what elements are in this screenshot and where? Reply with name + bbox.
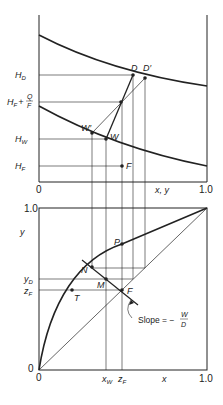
d-prime-w-prime-line (92, 78, 145, 133)
label-zf-y: zF (23, 286, 33, 297)
upper-x-origin: 0 (36, 184, 42, 195)
label-hf-plus-q: HF+ (7, 97, 23, 108)
point-f-lower (120, 288, 124, 292)
label-q: Q (27, 93, 33, 101)
label-f-upper: F (126, 161, 132, 171)
upper-x-end: 1.0 (199, 184, 213, 195)
label-xw: xW (101, 374, 114, 385)
point-w (104, 137, 108, 141)
lower-y-axis-label: y (19, 227, 25, 237)
point-d-prime (143, 76, 147, 80)
liquid-enthalpy-curve (39, 106, 207, 166)
label-m: M (97, 280, 105, 290)
label-p: P (114, 237, 120, 247)
label-hf: HF (15, 161, 26, 172)
lower-x-axis-label: x (161, 374, 167, 384)
point-m (104, 277, 108, 281)
label-f-den: F (27, 102, 32, 109)
lower-x-end: 1.0 (199, 373, 213, 384)
dw-line (106, 75, 133, 139)
point-delta (119, 100, 123, 104)
label-w-prime: W′ (81, 123, 91, 133)
upper-x-axis-label: x, y (154, 185, 170, 195)
ponchon-savarit-diagram: HD HF+ Q F HW HF D D′ W′ W F 0 x, y 1.0 … (0, 0, 223, 405)
lower-x-origin: 0 (36, 372, 42, 383)
point-p (120, 242, 124, 246)
point-t (70, 288, 74, 292)
label-hd: HD (15, 70, 27, 81)
label-f-lower: F (127, 286, 133, 296)
label-n: N (81, 265, 88, 275)
slope-text: Slope = − (138, 315, 174, 325)
label-w: W (110, 132, 120, 142)
label-t: T (74, 293, 81, 303)
lower-y-origin: 0 (28, 363, 34, 374)
lower-y-top: 1.0 (24, 203, 38, 214)
label-hw: HW (15, 134, 29, 145)
vapor-enthalpy-curve (39, 35, 207, 86)
label-d-prime: D′ (143, 63, 151, 73)
point-n (90, 265, 94, 269)
slope-num: W (181, 311, 189, 318)
point-f-upper (120, 164, 124, 168)
label-zf-x: zF (117, 374, 127, 385)
label-d: D (131, 63, 138, 73)
slope-den: D (181, 321, 186, 328)
label-yd: yD (23, 274, 34, 285)
point-d (131, 73, 135, 77)
